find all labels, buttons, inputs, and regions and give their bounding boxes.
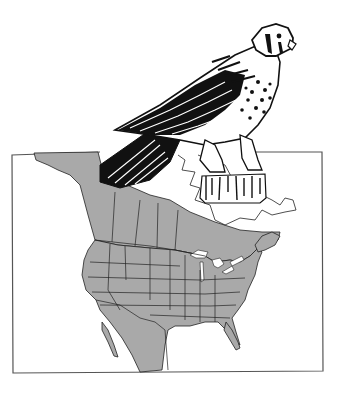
kestrel-bird <box>100 24 296 188</box>
kestrel-range-map-illustration <box>0 0 346 393</box>
bird-eye <box>277 34 282 39</box>
perch-post <box>200 174 266 203</box>
bird-head <box>252 24 293 56</box>
